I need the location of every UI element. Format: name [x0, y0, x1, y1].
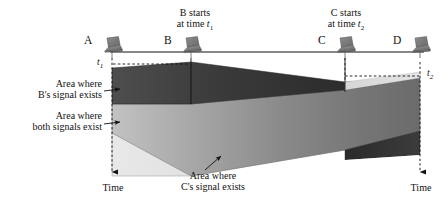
b-starts-line2: at time t1: [157, 18, 233, 33]
c-starts-prefix: at time: [328, 18, 358, 29]
t1-mark: t1: [97, 57, 103, 71]
node-label-b: B: [164, 34, 172, 47]
both-signals-area-line2: both signals exist: [6, 121, 102, 132]
node-label-d: D: [393, 34, 401, 47]
c-signal-area-line1: Area where: [160, 170, 266, 181]
c-starts-sub: 2: [361, 24, 365, 32]
t2-mark: t2: [427, 68, 433, 82]
b-signal-area-label: Area where B's signal exists: [10, 78, 102, 100]
left-time-axis-label: Time: [96, 182, 130, 193]
c-signal-area-line2: C's signal exists: [160, 181, 266, 192]
signal-propagation-figure: A B C D B starts at time t1 C starts at …: [0, 0, 447, 205]
both-signals-area-label: Area where both signals exist: [6, 110, 102, 132]
t1-sub: 1: [100, 62, 104, 70]
b-starts-prefix: at time: [177, 18, 207, 29]
laptop-icon: [338, 37, 356, 53]
b-starts-line1: B starts: [157, 7, 233, 18]
t2-sub: 2: [430, 73, 434, 81]
both-signals-area-line1: Area where: [6, 110, 102, 121]
c-starts-line2: at time t2: [308, 18, 384, 33]
c-signal-area-label: Area where C's signal exists: [160, 170, 266, 192]
right-time-axis-label: Time: [404, 182, 438, 193]
b-starts-sub: 1: [210, 24, 214, 32]
b-signal-area-line1: Area where: [10, 78, 102, 89]
b-starts-callout: B starts at time t1: [157, 7, 233, 33]
laptop-icon: [105, 37, 123, 53]
laptop-icon: [184, 37, 202, 53]
laptop-icon: [413, 37, 431, 53]
node-label-c: C: [318, 34, 326, 47]
c-starts-line1: C starts: [308, 7, 384, 18]
c-starts-callout: C starts at time t2: [308, 7, 384, 33]
node-label-a: A: [84, 34, 92, 47]
b-signal-area-line2: B's signal exists: [10, 89, 102, 100]
